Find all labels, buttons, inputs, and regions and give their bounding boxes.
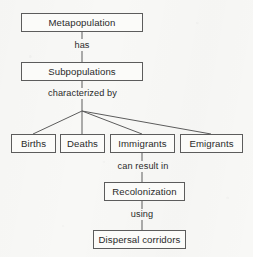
node-births[interactable]: Births <box>11 134 56 153</box>
edge-label-can-result-in: can result in <box>108 162 178 171</box>
node-subpopulations-label: Subpopulations <box>48 67 116 77</box>
node-births-label: Births <box>21 139 46 149</box>
node-emigrants-label: Emigrants <box>189 139 233 149</box>
connector-junction-to-immigrants <box>82 111 142 134</box>
node-immigrants-label: Immigrants <box>118 139 166 149</box>
node-subpopulations[interactable]: Subpopulations <box>21 62 143 81</box>
node-metapopulation[interactable]: Metapopulation <box>21 13 143 32</box>
concept-map-diagram: Metapopulation Subpopulations Births Dea… <box>0 0 253 257</box>
node-dispersal-corridors[interactable]: Dispersal corridors <box>93 230 186 249</box>
node-dispersal-corridors-label: Dispersal corridors <box>99 235 181 245</box>
edge-label-using: using <box>122 210 162 219</box>
node-deaths-label: Deaths <box>67 139 98 149</box>
edge-label-has: has <box>62 41 102 50</box>
node-immigrants[interactable]: Immigrants <box>110 134 175 153</box>
connector-junction-to-emigrants <box>82 111 211 134</box>
node-recolonization-label: Recolonization <box>112 187 176 197</box>
edge-label-characterized-by: characterized by <box>40 89 125 98</box>
node-emigrants[interactable]: Emigrants <box>180 134 243 153</box>
connector-junction-to-births <box>33 111 82 134</box>
node-metapopulation-label: Metapopulation <box>48 18 115 28</box>
node-deaths[interactable]: Deaths <box>60 134 105 153</box>
node-recolonization[interactable]: Recolonization <box>104 182 185 201</box>
